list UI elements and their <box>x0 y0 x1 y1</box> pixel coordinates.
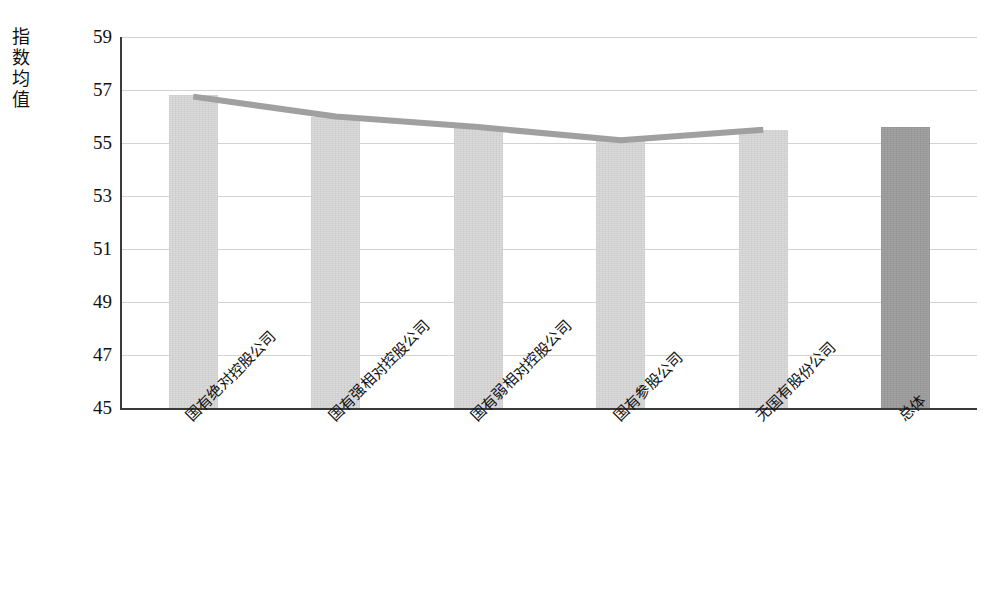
y-tick-label: 53 <box>64 186 112 205</box>
gridline <box>122 37 977 38</box>
bar <box>739 130 788 408</box>
bar <box>311 117 360 409</box>
y-tick-label: 51 <box>64 239 112 258</box>
y-tick-label: 57 <box>64 80 112 99</box>
gridline <box>122 196 977 197</box>
y-tick-label: 59 <box>64 27 112 46</box>
y-axis-tick-labels: 4547495153555759 <box>54 0 112 594</box>
bar <box>169 95 218 408</box>
bar <box>596 140 645 408</box>
line-series <box>122 37 977 408</box>
y-axis-title: 指数均值 <box>8 26 34 110</box>
y-tick-label: 49 <box>64 292 112 311</box>
chart-figure: 指数均值 4547495153555759 国有绝对控股公司国有强相对控股公司国… <box>0 0 995 594</box>
bar <box>454 127 503 408</box>
bar <box>881 127 930 408</box>
y-tick-label: 47 <box>64 345 112 364</box>
y-tick-label: 45 <box>64 398 112 417</box>
gridline <box>122 302 977 303</box>
gridline <box>122 249 977 250</box>
gridline <box>122 90 977 91</box>
plot-area <box>120 37 977 410</box>
y-tick-label: 55 <box>64 133 112 152</box>
gridline <box>122 355 977 356</box>
gridline <box>122 143 977 144</box>
